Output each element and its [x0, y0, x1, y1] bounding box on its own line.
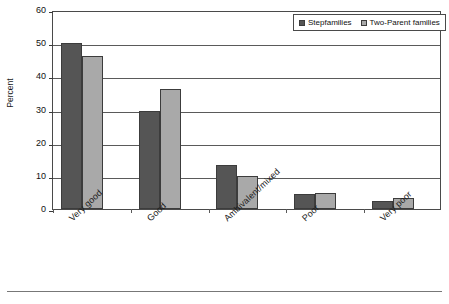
y-tick-label: 0: [20, 205, 46, 214]
bar-chart-figure: Percent 0102030405060 StepfamiliesTwo-Pa…: [0, 0, 449, 304]
bar: [82, 56, 103, 209]
legend-swatch-icon: [361, 20, 367, 26]
bar: [216, 165, 237, 209]
x-tick-mark: [209, 209, 210, 213]
y-tick-label: 30: [20, 106, 46, 115]
x-tick-mark: [131, 209, 132, 213]
legend-entry: Two-Parent families: [361, 18, 440, 27]
y-tick-label: 50: [20, 39, 46, 48]
y-tick-mark: [49, 112, 53, 113]
bottom-divider: [7, 291, 442, 292]
bar: [160, 89, 181, 209]
y-tick-mark: [49, 145, 53, 146]
y-tick-label: 40: [20, 72, 46, 81]
bar: [139, 111, 160, 209]
plot-area: [52, 11, 441, 210]
y-tick-mark: [49, 78, 53, 79]
y-tick-mark: [49, 45, 53, 46]
gridline: [53, 112, 440, 113]
x-tick-mark: [286, 209, 287, 213]
x-tick-mark: [53, 209, 54, 213]
legend-entry: Stepfamilies: [299, 18, 352, 27]
gridline: [53, 45, 440, 46]
y-tick-mark: [49, 12, 53, 13]
gridline: [53, 145, 440, 146]
y-tick-label: 20: [20, 139, 46, 148]
legend-swatch-icon: [299, 20, 305, 26]
y-tick-mark: [49, 178, 53, 179]
y-tick-label: 10: [20, 172, 46, 181]
legend-label: Two-Parent families: [370, 18, 440, 27]
gridline: [53, 78, 440, 79]
chart-legend: StepfamiliesTwo-Parent families: [293, 14, 446, 31]
legend-label: Stepfamilies: [308, 18, 352, 27]
x-tick-mark: [364, 209, 365, 213]
y-axis-title: Percent: [5, 63, 15, 123]
y-tick-label: 60: [20, 6, 46, 15]
bar: [61, 43, 82, 209]
